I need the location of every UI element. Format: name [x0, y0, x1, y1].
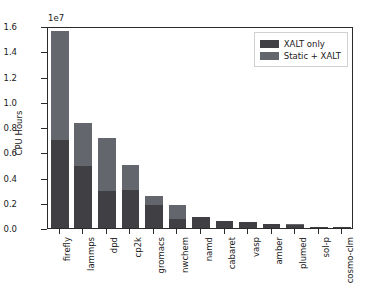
x-axis-tick-mark — [224, 229, 225, 234]
x-axis-tick-mark — [176, 229, 177, 234]
bar-segment-static-xalt — [145, 196, 163, 204]
bar-segment-xalt-only — [239, 222, 257, 228]
x-axis-tick-mark — [294, 229, 295, 234]
bar-segment-static-xalt — [122, 165, 140, 190]
bar-segment-xalt-only — [98, 191, 116, 228]
x-axis-tick-mark — [106, 229, 107, 234]
x-axis-tick-label-sol-p: sol-p — [321, 237, 331, 257]
x-axis-tick-mark — [82, 229, 83, 234]
bar-segment-xalt-only — [192, 217, 210, 228]
y-axis-tick-label: 0.4 — [0, 174, 17, 184]
y-axis-tick-label: 0.2 — [0, 199, 17, 209]
bar-namd — [192, 26, 210, 228]
y-axis-tick-label: 1.4 — [0, 47, 17, 57]
bar-segment-xalt-only — [74, 166, 92, 228]
bar-cabaret — [216, 26, 234, 228]
bar-segment-static-xalt — [74, 123, 92, 165]
x-axis-tick-label-namd: namd — [204, 237, 214, 261]
legend-swatch-xalt-only — [260, 40, 279, 48]
y-axis-tick-label: 0.0 — [0, 224, 17, 234]
x-axis-tick-mark — [318, 229, 319, 234]
x-axis-tick-label-cabaret: cabaret — [227, 237, 237, 269]
bar-segment-static-xalt — [98, 138, 116, 190]
bar-segment-static-xalt — [51, 31, 69, 140]
bar-segment-static-xalt — [286, 224, 304, 225]
bar-segment-xalt-only — [216, 221, 234, 228]
bar-segment-static-xalt — [169, 205, 187, 219]
y-axis-tick-label: 0.6 — [0, 148, 17, 158]
legend-item: XALT only — [260, 38, 341, 49]
legend-item: Static + XALT — [260, 50, 341, 61]
bar-segment-xalt-only — [263, 224, 281, 228]
plot-area: XALT only Static + XALT — [47, 27, 353, 229]
bar-segment-xalt-only — [169, 219, 187, 228]
y-axis-tick-label: 1.0 — [0, 98, 17, 108]
x-axis-tick-label-cosmo-clm: cosmo-clm — [345, 237, 355, 283]
bar-gromacs — [145, 26, 163, 228]
legend-label-xalt-only: XALT only — [284, 39, 325, 49]
y-axis-offset-text: 1e7 — [48, 13, 64, 23]
x-axis-tick-label-lammps: lammps — [86, 237, 96, 271]
bar-segment-xalt-only — [310, 227, 328, 228]
y-axis-tick-label: 1.2 — [0, 73, 17, 83]
legend-label-static-xalt: Static + XALT — [284, 51, 341, 61]
bar-segment-xalt-only — [145, 205, 163, 228]
chart-figure: 1e7 CPU Hours 0.00.20.40.60.81.01.21.41.… — [0, 0, 370, 292]
y-axis-tick-label: 1.6 — [0, 22, 17, 32]
bar-segment-xalt-only — [122, 190, 140, 228]
x-axis-tick-mark — [341, 229, 342, 234]
x-axis-tick-mark — [200, 229, 201, 234]
y-axis-tick-label: 0.8 — [0, 123, 17, 133]
x-axis-tick-mark — [59, 229, 60, 234]
legend-swatch-static-xalt — [260, 52, 279, 60]
x-axis-tick-label-amber: amber — [274, 237, 284, 265]
bar-firefly — [51, 26, 69, 228]
bar-dpd — [98, 26, 116, 228]
x-axis-tick-mark — [271, 229, 272, 234]
bar-segment-xalt-only — [51, 140, 69, 228]
x-axis-tick-mark — [129, 229, 130, 234]
x-axis-tick-label-cp2k: cp2k — [133, 237, 143, 257]
chart-legend: XALT only Static + XALT — [254, 32, 348, 67]
bar-segment-xalt-only — [333, 227, 351, 228]
x-axis-tick-mark — [247, 229, 248, 234]
bar-nwchem — [169, 26, 187, 228]
x-axis-tick-label-vasp: vasp — [251, 237, 261, 257]
y-axis-tick-mark — [41, 229, 47, 230]
x-axis-tick-label-plumed: plumed — [298, 237, 308, 269]
x-axis-tick-label-firefly: firefly — [62, 237, 72, 261]
x-axis-tick-label-dpd: dpd — [109, 237, 119, 253]
x-axis-tick-label-nwchem: nwchem — [180, 237, 190, 273]
bar-cp2k — [122, 26, 140, 228]
bar-lammps — [74, 26, 92, 228]
bar-segment-xalt-only — [286, 225, 304, 228]
x-axis-tick-mark — [153, 229, 154, 234]
x-axis-tick-label-gromacs: gromacs — [156, 237, 166, 274]
